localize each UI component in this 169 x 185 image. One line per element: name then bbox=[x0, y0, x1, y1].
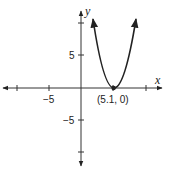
parabola-curve bbox=[93, 19, 136, 88]
vertex-point bbox=[111, 86, 115, 90]
x-tick-label-neg5: −5 bbox=[43, 94, 55, 105]
y-axis-label: y bbox=[84, 4, 91, 18]
vertex-label: (5.1, 0) bbox=[97, 94, 129, 105]
y-tick-label-neg5: −5 bbox=[63, 115, 75, 126]
x-axis-label: x bbox=[154, 73, 161, 87]
coordinate-plane: −5 5 −5 x y (5.1, 0) bbox=[0, 0, 169, 185]
y-tick-label-5: 5 bbox=[69, 50, 75, 61]
